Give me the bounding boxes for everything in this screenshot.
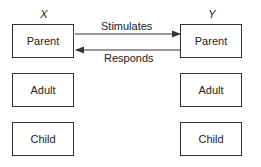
column-y-label: Y bbox=[202, 8, 222, 20]
y-child-box: Child bbox=[180, 122, 242, 156]
responds-label: Responds bbox=[104, 52, 154, 64]
x-parent-box: Parent bbox=[12, 24, 74, 58]
y-adult-box: Adult bbox=[180, 73, 242, 107]
y-parent-box: Parent bbox=[180, 24, 242, 58]
stimulates-label: Stimulates bbox=[101, 20, 152, 32]
x-adult-box: Adult bbox=[12, 73, 74, 107]
column-x-label: X bbox=[34, 8, 54, 20]
x-child-box: Child bbox=[12, 122, 74, 156]
